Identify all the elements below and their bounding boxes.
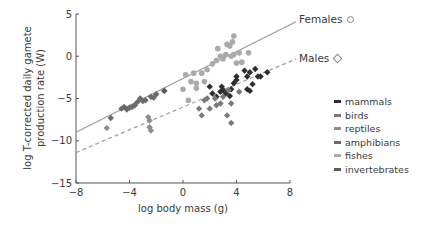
data-point-fishes <box>194 86 200 92</box>
legend-swatch-icon <box>334 127 341 130</box>
x-tick-label: 0 <box>180 187 186 198</box>
data-point-fishes <box>204 67 210 73</box>
tick-labels: 50−5−10−15−8−4048 <box>51 9 293 199</box>
males-label-text: Males <box>299 52 329 64</box>
data-point-fishes <box>231 52 237 58</box>
males-line-label: Males <box>299 52 341 64</box>
data-points <box>104 33 271 134</box>
data-point-fishes <box>194 80 200 86</box>
data-point-birds <box>228 120 234 126</box>
y-tick-label: −5 <box>57 93 72 104</box>
data-point-birds <box>228 100 234 106</box>
data-point-fishes <box>191 70 197 76</box>
y-axis-title-line2: production rate (W) <box>35 49 46 147</box>
data-point-birds <box>224 112 230 118</box>
legend-label: reptiles <box>345 122 380 135</box>
data-point-fishes <box>234 60 240 66</box>
legend-swatch-icon <box>334 141 341 144</box>
y-tick-label: 0 <box>66 51 72 62</box>
data-point-fishes <box>186 97 192 103</box>
legend-swatch-icon <box>334 100 341 103</box>
data-point-mammals <box>233 73 239 79</box>
circle-marker-icon <box>347 16 354 23</box>
data-point-fishes <box>246 50 252 56</box>
data-point-mammals <box>252 66 258 72</box>
x-tick-label: 8 <box>287 187 293 198</box>
legend-swatch-icon <box>334 154 341 157</box>
legend-swatch-icon <box>334 114 341 117</box>
y-axis-title-line1: log T-corrected daily gamete <box>22 26 33 170</box>
data-point-fishes <box>231 33 237 39</box>
legend-item-fishes: fishes <box>334 149 409 163</box>
data-point-fishes <box>214 58 220 64</box>
axes <box>76 14 290 183</box>
data-point-reptiles <box>104 125 110 131</box>
legend-item-invertebrates: invertebrates <box>334 163 409 177</box>
data-point-mammals <box>241 67 247 73</box>
data-point-fishes <box>215 46 221 52</box>
data-point-birds <box>196 105 202 111</box>
legend-label: amphibians <box>345 136 400 149</box>
legend-item-mammals: mammals <box>334 95 409 109</box>
data-point-fishes <box>188 79 194 85</box>
data-point-birds <box>199 112 205 118</box>
data-point-fishes <box>236 50 242 56</box>
legend-item-reptiles: reptiles <box>334 122 409 136</box>
fit-lines <box>76 22 296 153</box>
legend-label: invertebrates <box>345 163 409 176</box>
data-point-fishes <box>199 70 205 76</box>
data-point-mammals <box>207 83 213 89</box>
legend-item-birds: birds <box>334 109 409 123</box>
data-point-fishes <box>202 79 208 85</box>
x-tick-label: 4 <box>233 187 239 198</box>
y-tick-label: 5 <box>66 9 72 20</box>
x-tick-label: −4 <box>122 187 137 198</box>
x-axis-title: log body mass (g) <box>138 203 228 214</box>
data-point-fishes <box>180 86 186 92</box>
diamond-marker-icon <box>333 53 343 63</box>
legend-label: mammals <box>345 95 392 108</box>
legend-swatch-icon <box>334 168 341 171</box>
legend-item-amphibians: amphibians <box>334 136 409 150</box>
legend: mammals birds reptiles amphibians fishes… <box>334 95 409 176</box>
data-point-birds <box>207 105 213 111</box>
females-label-text: Females <box>299 13 342 25</box>
y-tick-label: −10 <box>51 135 72 146</box>
data-point-fishes <box>230 39 236 45</box>
females-line-label: Females <box>299 13 354 25</box>
data-point-fishes <box>183 72 189 78</box>
legend-label: birds <box>345 109 368 122</box>
legend-label: fishes <box>345 149 373 162</box>
data-point-fishes <box>239 59 245 65</box>
x-tick-label: −8 <box>69 187 84 198</box>
data-point-birds <box>236 89 242 95</box>
data-point-mammals <box>249 81 255 87</box>
data-point-fishes <box>223 52 229 58</box>
